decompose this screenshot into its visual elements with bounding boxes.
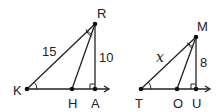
segment-TM	[141, 37, 196, 89]
label-side-TM: x	[156, 49, 164, 65]
left-figure	[27, 24, 109, 92]
label-side-KR: 15	[42, 44, 56, 59]
label-side-RA: 10	[99, 50, 113, 65]
angle-mark-K	[34, 82, 37, 89]
point-M	[194, 35, 199, 40]
label-M: M	[197, 19, 208, 34]
point-H	[70, 87, 75, 92]
point-K	[25, 87, 30, 92]
point-U	[194, 87, 199, 92]
point-R	[93, 22, 98, 27]
point-O	[175, 87, 180, 92]
label-A: A	[91, 96, 100, 111]
point-T	[139, 87, 144, 92]
segment-KR	[27, 24, 95, 89]
label-side-MU: 8	[200, 55, 207, 70]
label-O: O	[173, 96, 183, 111]
segment-OM	[177, 37, 196, 89]
label-U: U	[192, 96, 201, 111]
label-K: K	[13, 83, 22, 98]
label-R: R	[97, 6, 106, 21]
label-H: H	[68, 96, 77, 111]
similar-triangles-diagram: R K H A 15 10 M T O U x 8	[0, 0, 223, 112]
label-T: T	[135, 96, 143, 111]
angle-mark-T	[148, 82, 151, 89]
point-A	[93, 87, 98, 92]
